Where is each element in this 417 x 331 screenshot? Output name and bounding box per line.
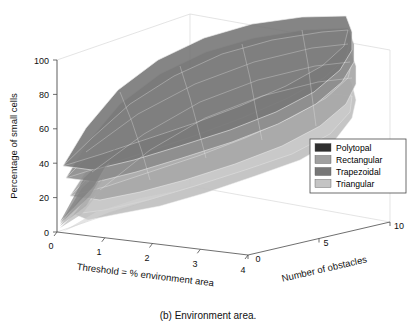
legend-item-triangular[interactable]: Triangular (315, 179, 375, 189)
z-tick-100: 100 (34, 56, 49, 66)
legend-swatch-polytopal (315, 144, 331, 152)
legend-item-trapezoidal[interactable]: Trapezoidal (315, 167, 381, 177)
legend-label-rectangular: Rectangular (336, 155, 382, 165)
legend-item-polytopal[interactable]: Polytopal (315, 143, 371, 153)
z-tick-80: 80 (39, 90, 49, 100)
x-tick-4: 4 (240, 265, 245, 275)
x-tick-1: 1 (96, 247, 101, 257)
y-tick-0: 0 (255, 254, 260, 264)
legend-swatch-trapezoidal (315, 168, 331, 176)
x-tick-2: 2 (144, 253, 149, 263)
z-axis-title: Percentage of small cells (8, 93, 19, 199)
legend-item-rectangular[interactable]: Rectangular (315, 155, 382, 165)
x-tick-3: 3 (192, 259, 197, 269)
z-tick-20: 20 (39, 193, 49, 203)
y-tick-5: 5 (323, 238, 328, 248)
y-tick-10: 10 (394, 221, 404, 231)
legend-label-polytopal: Polytopal (336, 143, 371, 153)
legend: Polytopal Rectangular Trapezoidal Triang… (310, 139, 406, 193)
surface-plot-3d: 0 20 40 60 80 100 Percentage of small ce… (0, 0, 417, 331)
legend-swatch-triangular (315, 180, 331, 188)
z-tick-40: 40 (39, 159, 49, 169)
x-tick-0: 0 (48, 241, 53, 251)
z-tick-60: 60 (39, 124, 49, 134)
legend-label-trapezoidal: Trapezoidal (336, 167, 381, 177)
z-tick-0: 0 (44, 228, 49, 238)
figure-environment-area: 0 20 40 60 80 100 Percentage of small ce… (0, 0, 417, 331)
legend-label-triangular: Triangular (336, 179, 375, 189)
legend-swatch-rectangular (315, 156, 331, 164)
figure-caption: (b) Environment area. (160, 310, 257, 321)
